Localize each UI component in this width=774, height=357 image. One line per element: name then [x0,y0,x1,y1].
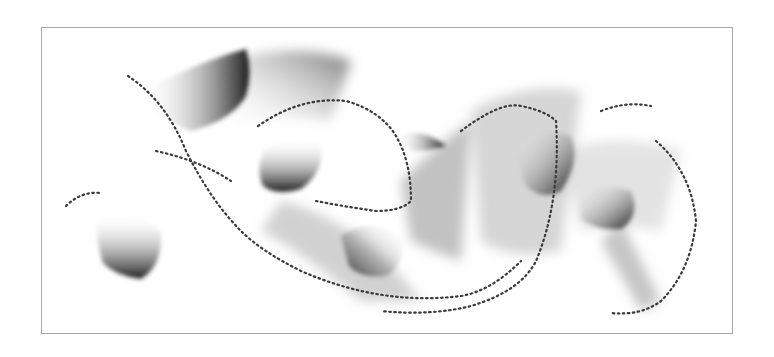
trail-7 [601,104,651,111]
captcha-image-frame [41,27,733,334]
abstract-blob-canvas [42,28,732,333]
blob-bottom-left [96,213,161,279]
blob-far-right [579,187,634,229]
blob-center-left [260,138,322,192]
trail-4 [66,193,101,206]
trail-2 [156,151,231,181]
